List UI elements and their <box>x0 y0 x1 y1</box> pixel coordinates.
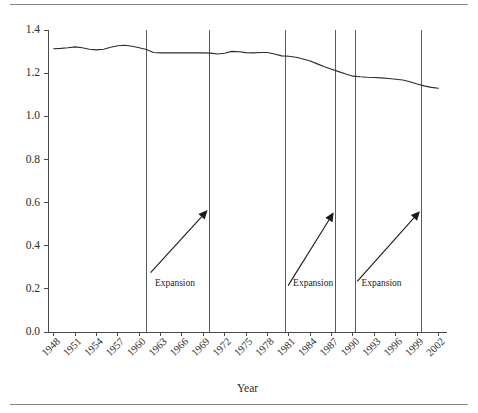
y-tick-label: 0.6 <box>26 196 41 208</box>
expansion-arrow-shaft <box>288 220 329 286</box>
y-axis-ticks <box>44 30 48 332</box>
x-tick-label: 2002 <box>424 336 447 359</box>
y-tick-label: 1.4 <box>26 23 41 35</box>
data-series-line <box>54 45 439 88</box>
x-tick-label: 1966 <box>168 336 191 359</box>
x-tick-label: 1990 <box>339 336 362 359</box>
y-tick-label: 1.0 <box>26 109 41 121</box>
x-tick-label: 1951 <box>61 336 84 359</box>
expansion-arrow-shaft <box>151 217 202 273</box>
expansion-arrow-head <box>325 212 333 222</box>
x-tick-label: 1999 <box>403 336 426 359</box>
expansion-label: Expansion <box>362 278 402 288</box>
x-tick-label: 1969 <box>189 336 212 359</box>
y-tick-label: 0.4 <box>26 239 41 251</box>
y-axis-tick-labels: 0.00.20.40.60.81.01.21.4 <box>26 23 41 337</box>
x-tick-label: 1954 <box>82 335 105 358</box>
y-tick-label: 0.8 <box>26 153 41 165</box>
y-tick-label: 1.2 <box>26 66 41 78</box>
x-tick-label: 1972 <box>210 336 233 359</box>
y-tick-label: 0.2 <box>26 282 41 294</box>
x-tick-label: 1963 <box>146 336 169 359</box>
y-tick-label: 0.0 <box>26 325 41 337</box>
x-tick-label: 1981 <box>275 336 298 359</box>
x-tick-label: 1978 <box>253 336 276 359</box>
x-tick-label: 1960 <box>125 336 148 359</box>
x-axis-tick-labels: 1948195119541957196019631966196919721975… <box>39 335 446 358</box>
x-tick-label: 1993 <box>360 336 383 359</box>
x-axis-title: Year <box>237 382 258 394</box>
x-tick-label: 1996 <box>381 336 404 359</box>
figure-container: 0.00.20.40.60.81.01.21.4 194819511954195… <box>0 0 478 413</box>
x-tick-label: 1948 <box>39 336 62 359</box>
x-tick-label: 1987 <box>317 336 340 359</box>
x-tick-label: 1975 <box>232 336 255 359</box>
line-chart-plot: 0.00.20.40.60.81.01.21.4 194819511954195… <box>0 0 478 413</box>
expansion-annotations: ExpansionExpansionExpansion <box>151 210 420 288</box>
expansion-arrow-shaft <box>357 218 414 281</box>
expansion-label: Expansion <box>155 278 195 288</box>
x-tick-label: 1984 <box>296 335 319 358</box>
expansion-label: Expansion <box>293 278 333 288</box>
x-tick-label: 1957 <box>104 336 127 359</box>
